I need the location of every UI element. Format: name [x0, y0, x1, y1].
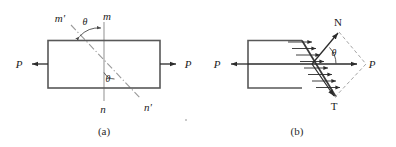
label-resultant-b: P — [368, 58, 376, 70]
label-theta-inside-a: θ — [106, 73, 111, 84]
label-m: m — [103, 10, 111, 22]
panel-a: m' m θ θ n n' P P (a) — [15, 10, 192, 138]
label-theta-b: θ — [332, 47, 337, 58]
label-theta-top-a: θ — [83, 16, 88, 27]
figure-container: m' m θ θ n n' P P (a) — [0, 0, 396, 147]
label-load-left-b: P — [213, 58, 221, 70]
figure-svg: m' m θ θ n n' P P (a) — [0, 0, 396, 147]
label-m-prime: m' — [55, 12, 66, 24]
angle-arc-top-a — [80, 28, 102, 37]
caption-panel-b: (b) — [291, 125, 304, 138]
label-n-prime: n' — [144, 101, 153, 113]
label-load-right-a: P — [184, 58, 192, 70]
caption-panel-a: (a) — [98, 125, 111, 138]
panel-b: N T θ P P (b) — [213, 16, 376, 138]
scan-speck — [185, 119, 187, 121]
label-shear-force-T: T — [331, 100, 338, 112]
label-normal-force-N: N — [334, 16, 342, 28]
label-load-left-a: P — [15, 58, 23, 70]
label-n: n — [100, 103, 106, 115]
shear-force-arrow-b — [312, 64, 334, 96]
